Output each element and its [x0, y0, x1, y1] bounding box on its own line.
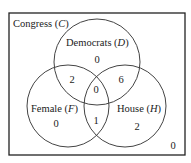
region-d-and-h: 6: [118, 74, 123, 85]
venn-diagram: Congress (C) Democrats (D) Female (F) Ho…: [0, 0, 191, 163]
democrats-label: Democrats (D): [66, 37, 129, 49]
female-label: Female (F): [31, 103, 78, 115]
universe-label: Congress (C): [13, 18, 69, 30]
region-f-and-h: 1: [93, 115, 98, 126]
region-d-only: 0: [94, 54, 99, 65]
region-outside: 0: [170, 140, 175, 151]
house-label: House (H): [117, 103, 162, 115]
region-h-only: 2: [134, 121, 139, 132]
region-f-only: 0: [53, 118, 58, 129]
region-d-f-h: 0: [93, 84, 98, 95]
region-d-and-f: 2: [69, 74, 74, 85]
